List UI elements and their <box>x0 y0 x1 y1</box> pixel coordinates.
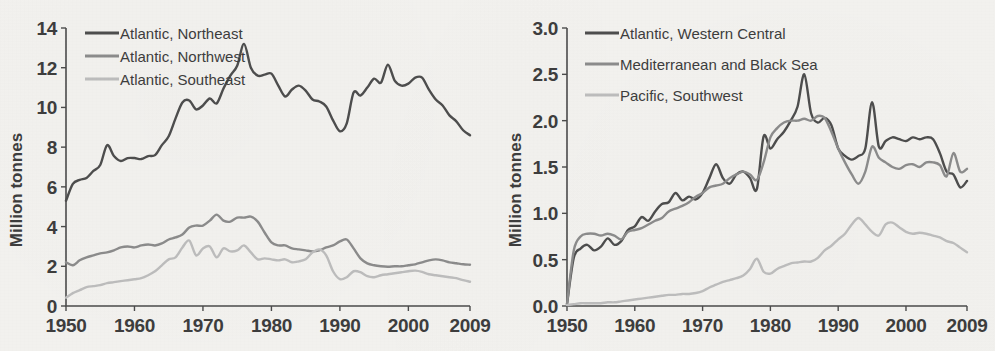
svg-text:3.0: 3.0 <box>532 18 558 39</box>
svg-text:2: 2 <box>47 256 57 277</box>
svg-text:2009: 2009 <box>946 315 987 336</box>
svg-text:12: 12 <box>36 58 57 79</box>
left-x-tick-labels: 1950196019701980199020002009 <box>45 306 490 336</box>
svg-text:1970: 1970 <box>182 315 223 336</box>
right-y-axis-title: Million tonnes <box>506 133 525 247</box>
svg-text:1.5: 1.5 <box>532 157 558 178</box>
right-x-tick-labels: 1950196019701980199020002009 <box>546 306 987 336</box>
legend-item: Mediterranean and Black Sea <box>585 56 818 73</box>
svg-text:2.5: 2.5 <box>532 64 558 85</box>
legend-label: Atlantic, Western Central <box>620 25 786 42</box>
left-y-axis-title: Million tonnes <box>7 133 26 247</box>
svg-text:0.5: 0.5 <box>532 250 558 271</box>
svg-text:2.0: 2.0 <box>532 111 558 132</box>
svg-text:1990: 1990 <box>319 315 360 336</box>
legend-label: Mediterranean and Black Sea <box>620 56 818 73</box>
svg-text:1980: 1980 <box>750 315 791 336</box>
series-line-mediterranean-and-black-sea <box>567 116 967 304</box>
svg-text:14: 14 <box>36 18 57 39</box>
svg-text:6: 6 <box>47 177 57 198</box>
svg-text:0.0: 0.0 <box>532 296 558 317</box>
svg-text:2000: 2000 <box>388 315 429 336</box>
svg-text:8: 8 <box>47 137 57 158</box>
chart-panel-right: 0.00.51.01.52.02.53.0 195019601970198019… <box>497 0 994 351</box>
left-legend: Atlantic, NortheastAtlantic, NorthwestAt… <box>85 25 246 88</box>
svg-text:1970: 1970 <box>682 315 723 336</box>
svg-text:10: 10 <box>36 97 57 118</box>
series-line-atlantic-northeast <box>66 44 470 201</box>
left-y-tick-labels: 02468101214 <box>36 18 66 317</box>
legend-label: Pacific, Southwest <box>620 87 743 104</box>
legend-item: Pacific, Southwest <box>585 87 743 104</box>
right-y-tick-labels: 0.00.51.01.52.02.53.0 <box>532 18 567 317</box>
svg-text:2009: 2009 <box>449 315 490 336</box>
svg-text:1960: 1960 <box>614 315 655 336</box>
legend-item: Atlantic, Northwest <box>85 48 246 65</box>
svg-text:2000: 2000 <box>885 315 926 336</box>
legend-item: Atlantic, Western Central <box>585 25 786 42</box>
series-line-atlantic-southeast <box>66 240 470 297</box>
svg-text:1950: 1950 <box>45 315 86 336</box>
legend-label: Atlantic, Northwest <box>120 48 246 65</box>
left-chart-svg: 02468101214 1950196019701980199020002009… <box>0 0 497 351</box>
svg-text:0: 0 <box>47 296 57 317</box>
svg-text:4: 4 <box>47 217 58 238</box>
svg-text:1990: 1990 <box>818 315 859 336</box>
svg-text:1980: 1980 <box>251 315 292 336</box>
legend-label: Atlantic, Northeast <box>120 25 243 42</box>
svg-text:1950: 1950 <box>546 315 587 336</box>
legend-label: Atlantic, Southeast <box>120 71 246 88</box>
svg-text:1.0: 1.0 <box>532 203 558 224</box>
svg-text:1960: 1960 <box>114 315 155 336</box>
legend-item: Atlantic, Northeast <box>85 25 243 42</box>
right-chart-svg: 0.00.51.01.52.02.53.0 195019601970198019… <box>497 0 995 351</box>
series-line-atlantic-western-central <box>567 74 967 304</box>
figure-container: 02468101214 1950196019701980199020002009… <box>0 0 995 351</box>
chart-panel-left: 02468101214 1950196019701980199020002009… <box>0 0 497 351</box>
right-legend: Atlantic, Western CentralMediterranean a… <box>585 25 818 104</box>
legend-item: Atlantic, Southeast <box>85 71 246 88</box>
right-series-lines <box>567 74 967 305</box>
